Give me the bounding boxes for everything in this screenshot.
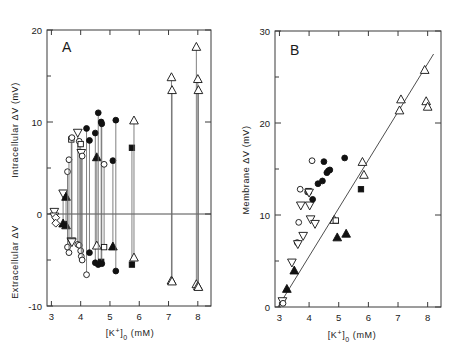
panel-b-y-axis-title: Membrane ΔV (mV) [241, 125, 251, 214]
panel-a-point-extracellular [79, 257, 85, 263]
panel-a-point-extracellular [65, 244, 71, 250]
panel-b-data-point [297, 186, 303, 192]
panel-a-point-intracellular [168, 86, 177, 94]
panel-a-point-intracellular [87, 138, 93, 144]
panel-b-x-tick-label: 5 [336, 312, 341, 323]
panel-b-data-point [333, 233, 342, 241]
panel-b-data-point [311, 220, 320, 228]
panel-b-x-tick-label: 6 [366, 312, 371, 323]
panel-b-data-point [422, 97, 431, 105]
panel-b-data-point [280, 300, 286, 306]
panel-a-point-intracellular [167, 73, 176, 81]
panel-b: 3456780102030 B [K+]0 (mM) Membrane ΔV (… [232, 0, 459, 359]
panel-b-axes: 3456780102030 [259, 26, 441, 324]
figure-root: 345678-1001020 A [K+]0 (mM) Intracellula… [0, 0, 459, 359]
panel-b-data-point [397, 95, 406, 103]
panel-a-data [50, 42, 203, 290]
panel-b-x-tick-label: 4 [306, 312, 311, 323]
panel-b-data-point [296, 202, 305, 210]
panel-a-point-intracellular [84, 126, 90, 132]
panel-b-fit-line [278, 54, 434, 307]
panel-a-point-intracellular [193, 75, 202, 83]
panel-a-point-extracellular [99, 261, 105, 267]
panel-a-x-tick-label: 7 [166, 311, 171, 322]
panel-a-x-tick-label: 5 [107, 311, 112, 322]
panel-a-svg: 345678-1001020 A [K+]0 (mM) Intracellula… [0, 0, 232, 359]
panel-b-data-point [358, 157, 367, 165]
panel-a: 345678-1001020 A [K+]0 (mM) Intracellula… [0, 0, 232, 359]
panel-a-point-intracellular [69, 135, 75, 141]
panel-b-y-tick-label: 0 [265, 302, 270, 313]
panel-b-data-point [305, 202, 314, 210]
panel-a-point-intracellular [78, 141, 83, 146]
panel-a-point-intracellular [192, 42, 201, 50]
panel-a-axes: 345678-1001020 [28, 25, 211, 323]
panel-b-x-tick-label: 3 [277, 312, 282, 323]
panel-b-data-point [333, 218, 338, 223]
panel-b-data-point [358, 187, 363, 192]
panel-a-point-intracellular [65, 169, 71, 175]
panel-a-point-intracellular [194, 86, 203, 94]
panel-b-data-point [309, 158, 315, 164]
panel-a-x-tick-label: 4 [78, 311, 83, 322]
panel-a-point-extracellular [66, 250, 72, 256]
panel-a-y-axis-title-lower: Extracellular ΔV [10, 225, 20, 299]
panel-a-point-extracellular [78, 248, 84, 254]
panel-a-point-intracellular [101, 161, 107, 167]
panel-a-x-axis-title: [K+]0 (mM) [106, 327, 155, 341]
panel-b-x-tick-label: 8 [425, 312, 430, 323]
panel-b-y-tick-label: 30 [259, 26, 270, 37]
panel-a-point-intracellular [79, 153, 85, 159]
panel-b-data-point [290, 266, 299, 274]
panel-a-point-intracellular [113, 117, 119, 123]
panel-b-data-point [420, 65, 429, 73]
panel-a-point-intracellular [92, 153, 101, 161]
panel-b-data-point [327, 167, 333, 173]
panel-a-point-intracellular [110, 158, 116, 164]
panel-a-point-extracellular [84, 272, 90, 278]
panel-a-point-extracellular [92, 241, 101, 249]
panel-b-x-tick-label: 7 [395, 312, 400, 323]
panel-a-point-extracellular [87, 250, 93, 256]
panel-a-y-tick-label: -10 [28, 301, 42, 312]
panel-b-y-tick-label: 10 [259, 210, 270, 221]
panel-b-x-axis-title: [K+]0 (mM) [328, 329, 377, 343]
panel-a-y-axis-title-upper: Intracellular ΔV (mV) [10, 82, 20, 178]
panel-a-x-tick-label: 6 [137, 311, 142, 322]
panel-a-point-intracellular [130, 116, 139, 124]
panel-b-y-tick-label: 20 [259, 118, 270, 129]
panel-a-x-tick-label: 3 [49, 311, 54, 322]
panel-a-point-intracellular [99, 121, 105, 127]
panel-b-frame [275, 31, 441, 307]
panel-b-data-point [288, 259, 297, 267]
panel-b-data [278, 54, 434, 307]
panel-a-point-extracellular [101, 244, 106, 249]
panel-a-y-tick-label: 0 [37, 209, 42, 220]
panel-b-letter: B [290, 42, 299, 58]
panel-a-letter: A [62, 39, 72, 55]
panel-b-data-point [321, 159, 327, 165]
panel-a-point-extracellular [130, 253, 139, 261]
panel-a-x-tick-label: 8 [195, 311, 200, 322]
panel-a-y-tick-label: 20 [31, 25, 42, 36]
panel-a-point-extracellular [113, 268, 119, 274]
panel-a-point-extracellular [52, 219, 60, 227]
panel-b-data-point [296, 219, 302, 225]
panel-a-point-intracellular [95, 110, 101, 116]
panel-b-data-point [299, 232, 308, 240]
panel-a-y-tick-label: 10 [31, 117, 42, 128]
panel-b-data-point [310, 196, 316, 202]
panel-b-data-point [320, 178, 326, 184]
panel-b-data-point [395, 106, 404, 114]
panel-b-data-point [342, 229, 351, 237]
panel-a-point-intracellular [92, 130, 98, 136]
panel-b-svg: 3456780102030 B [K+]0 (mM) Membrane ΔV (… [232, 0, 459, 359]
panel-b-data-point [342, 155, 348, 161]
panel-a-point-extracellular [129, 262, 134, 267]
